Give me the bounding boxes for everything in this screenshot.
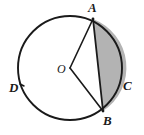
point-label-c: C	[123, 79, 132, 92]
center-label-o: O	[57, 63, 66, 75]
point-a-marker	[92, 18, 95, 21]
point-label-d: D	[9, 81, 18, 94]
point-label-a: A	[88, 1, 97, 14]
radius-oa-line	[70, 19, 93, 68]
geometry-canvas	[0, 0, 144, 135]
point-label-b: B	[103, 114, 112, 127]
radius-ob-line	[70, 68, 103, 111]
circle-segment-figure: A B C D O	[0, 0, 144, 135]
point-b-marker	[102, 110, 105, 113]
